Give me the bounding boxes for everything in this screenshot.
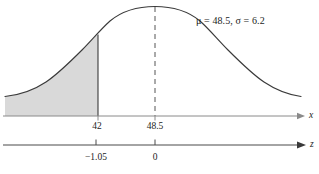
parameters-annotation: μ = 48.5, σ = 6.2: [196, 15, 265, 26]
normal-distribution-figure: μ = 48.5, σ = 6.2 42 48.5 x −1.05 0 z: [0, 0, 319, 174]
x-tick-label-48-5: 48.5: [147, 121, 164, 131]
z-axis-letter: z: [310, 139, 314, 149]
x-axis-arrowhead: [297, 113, 305, 119]
z-tick-label-minus-1-05: −1.05: [85, 152, 107, 162]
z-axis-arrowhead: [297, 142, 306, 149]
distribution-plot-canvas: [0, 0, 319, 174]
z-tick-label-0: 0: [153, 152, 158, 162]
x-axis-letter: x: [309, 110, 313, 120]
x-tick-label-42: 42: [92, 121, 102, 131]
shaded-tail-region: [5, 35, 98, 117]
